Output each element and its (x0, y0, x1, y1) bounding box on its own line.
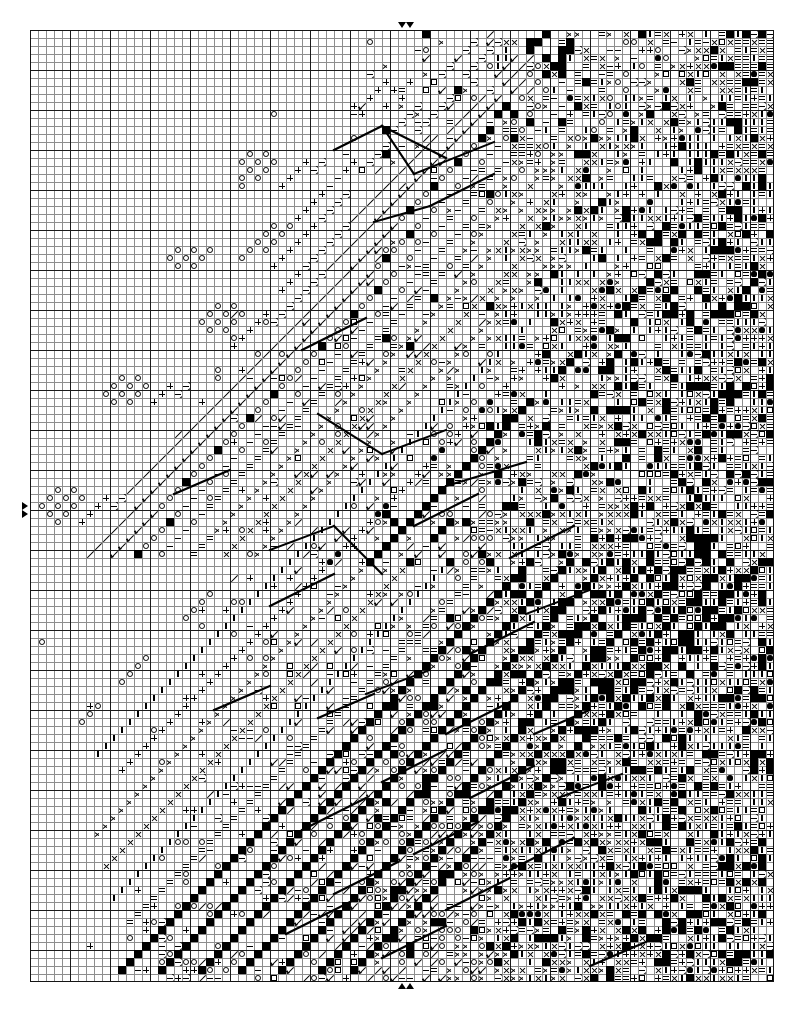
filled-circle-symbol (614, 302, 622, 310)
double-dash-symbol (302, 742, 310, 750)
vertical-bar-symbol (630, 886, 638, 894)
down-left-arrow-symbol (366, 502, 374, 510)
diagonal-slash-symbol (86, 550, 94, 558)
cross-symbol (310, 462, 318, 470)
cross-symbol (630, 926, 638, 934)
double-dash-symbol (382, 310, 390, 318)
vertical-bar-symbol (534, 622, 542, 630)
diagonal-slash-symbol (230, 950, 238, 958)
filled-square-symbol (598, 590, 606, 598)
filled-square-symbol (678, 230, 686, 238)
filled-square-symbol (630, 654, 638, 662)
double-dash-symbol (526, 878, 534, 886)
cross-symbol (702, 46, 710, 54)
diagonal-slash-symbol (366, 430, 374, 438)
filled-square-symbol (558, 630, 566, 638)
cross-symbol (366, 406, 374, 414)
diagonal-slash-symbol (430, 134, 438, 142)
filled-square-symbol (462, 822, 470, 830)
plus-symbol (694, 878, 702, 886)
cross-symbol (726, 350, 734, 358)
vertical-bar-symbol (694, 630, 702, 638)
horizontal-dash-symbol (246, 374, 254, 382)
open-square-symbol (430, 78, 438, 86)
double-dash-symbol (430, 614, 438, 622)
vertical-bar-symbol (758, 126, 766, 134)
diagonal-slash-symbol (438, 750, 446, 758)
filled-circle-symbol (638, 534, 646, 542)
horizontal-dash-symbol (550, 94, 558, 102)
vertical-bar-symbol (718, 814, 726, 822)
right-arrow-symbol (710, 710, 718, 718)
pattern-grid[interactable] (30, 30, 774, 982)
plus-symbol (350, 542, 358, 550)
vertical-bar-symbol (590, 886, 598, 894)
double-dash-symbol (446, 118, 454, 126)
dotted-square-symbol (238, 566, 246, 574)
filled-square-symbol (510, 670, 518, 678)
open-circle-symbol (462, 966, 470, 974)
diagonal-slash-symbol (230, 574, 238, 582)
open-circle-symbol (230, 430, 238, 438)
double-dash-symbol (590, 326, 598, 334)
double-dash-symbol (662, 558, 670, 566)
plus-symbol (566, 910, 574, 918)
plus-symbol (182, 702, 190, 710)
dotted-square-symbol (222, 566, 230, 574)
open-circle-symbol (470, 534, 478, 542)
filled-square-symbol (582, 702, 590, 710)
vertical-bar-symbol (222, 782, 230, 790)
diagonal-slash-symbol (270, 830, 278, 838)
double-dash-symbol (582, 718, 590, 726)
filled-square-symbol (654, 614, 662, 622)
vertical-bar-symbol (206, 798, 214, 806)
horizontal-dash-symbol (318, 366, 326, 374)
diagonal-slash-symbol (270, 342, 278, 350)
right-arrow-symbol (718, 486, 726, 494)
right-arrow-symbol (638, 734, 646, 742)
diagonal-slash-symbol (286, 806, 294, 814)
horizontal-dash-symbol (366, 750, 374, 758)
plus-symbol (758, 366, 766, 374)
vertical-bar-symbol (446, 398, 454, 406)
double-dash-symbol (702, 286, 710, 294)
down-left-arrow-symbol (350, 326, 358, 334)
chevron-symbol (510, 710, 518, 718)
chevron-symbol (558, 214, 566, 222)
down-left-arrow-symbol (150, 486, 158, 494)
filled-square-symbol (478, 806, 486, 814)
horizontal-dash-symbol (318, 774, 326, 782)
cross-symbol (758, 726, 766, 734)
open-circle-symbol (262, 230, 270, 238)
stipple-fill-symbol (78, 478, 86, 486)
chevron-symbol (478, 974, 486, 982)
plus-symbol (614, 646, 622, 654)
chevron-symbol (382, 62, 390, 70)
horizontal-dash-symbol (422, 310, 430, 318)
open-circle-symbol (414, 222, 422, 230)
plus-symbol (542, 334, 550, 342)
double-dash-symbol (230, 478, 238, 486)
double-dash-symbol (574, 94, 582, 102)
right-arrow-symbol (678, 966, 686, 974)
double-dash-symbol (310, 398, 318, 406)
plus-symbol (654, 134, 662, 142)
vertical-bar-symbol (710, 262, 718, 270)
double-dash-symbol (718, 878, 726, 886)
cross-symbol (702, 806, 710, 814)
plus-symbol (526, 734, 534, 742)
vertical-bar-symbol (710, 510, 718, 518)
vertical-bar-symbol (606, 718, 614, 726)
vertical-bar-symbol (742, 486, 750, 494)
chevron-symbol (558, 182, 566, 190)
chevron-symbol (374, 958, 382, 966)
filled-square-symbol (438, 806, 446, 814)
horizontal-dash-symbol (422, 286, 430, 294)
vertical-bar-symbol (758, 238, 766, 246)
horizontal-dash-symbol (366, 662, 374, 670)
double-dash-symbol (350, 358, 358, 366)
double-dash-symbol (742, 342, 750, 350)
filled-circle-symbol (734, 422, 742, 430)
filled-circle-symbol (614, 774, 622, 782)
filled-square-symbol (326, 758, 334, 766)
